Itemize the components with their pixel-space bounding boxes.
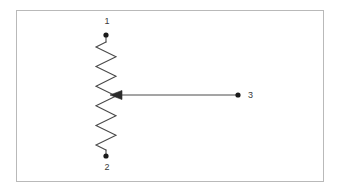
potentiometer-diagram: 1 2 3 xyxy=(0,0,340,190)
terminal-2-dot xyxy=(103,153,108,158)
figure-border xyxy=(17,11,324,182)
terminal-3-label: 3 xyxy=(248,90,253,100)
terminal-1-label: 1 xyxy=(104,16,109,26)
terminal-1-dot xyxy=(103,32,108,37)
terminal-2-label: 2 xyxy=(104,162,109,172)
figure-canvas: 1 2 3 xyxy=(0,0,340,190)
terminal-2: 2 xyxy=(103,153,109,172)
terminal-3-dot xyxy=(235,92,240,97)
